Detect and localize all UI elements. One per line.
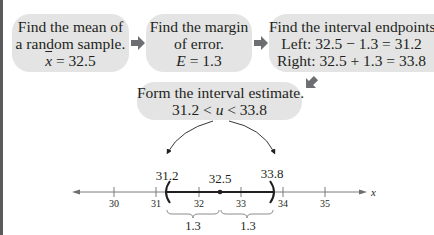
axis-right-arrow-icon bbox=[359, 190, 367, 195]
right-brace-label: 1.3 bbox=[240, 219, 256, 233]
right-brace bbox=[221, 210, 273, 218]
left-endpoint-label: 31.2 bbox=[156, 168, 179, 183]
tick-label: 33 bbox=[236, 198, 246, 209]
number-line-diagram: x 30 31 32 33 34 35 31.2 32.5 33.8 1.3 1… bbox=[0, 0, 434, 235]
left-brace-label: 1.3 bbox=[185, 219, 201, 233]
tick-label: 32 bbox=[194, 198, 204, 209]
right-endpoint-label: 33.8 bbox=[261, 166, 284, 181]
center-label: 32.5 bbox=[209, 171, 232, 186]
axis-label: x bbox=[370, 186, 376, 198]
tick-label: 31 bbox=[151, 198, 161, 209]
curved-arrow-left bbox=[168, 121, 213, 152]
tick-label: 35 bbox=[320, 198, 330, 209]
tick-label: 34 bbox=[278, 198, 288, 209]
axis-left-arrow-icon bbox=[72, 190, 80, 195]
curved-arrow-right bbox=[229, 121, 274, 152]
left-brace bbox=[167, 210, 219, 218]
center-point bbox=[218, 190, 223, 195]
tick-label: 30 bbox=[109, 198, 119, 209]
